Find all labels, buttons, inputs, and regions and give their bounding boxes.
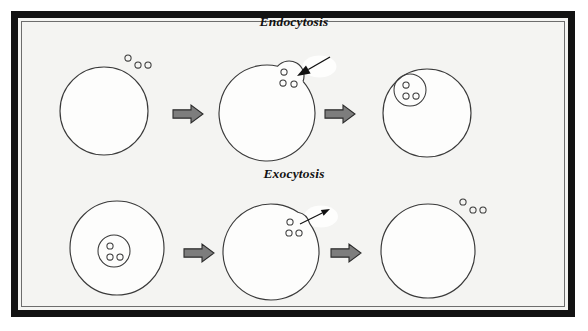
diagram-canvas: EndocytosisExocytosis: [0, 0, 588, 331]
cell-membrane: [70, 201, 164, 295]
row-title-endocytosis: Endocytosis: [259, 14, 329, 29]
cell-membrane: [60, 67, 148, 155]
cell-membrane: [381, 204, 475, 298]
cell-membrane: [223, 204, 319, 300]
arrow-highlight: [303, 56, 337, 78]
row-title-exocytosis: Exocytosis: [262, 166, 324, 181]
endocytosis-exocytosis-diagram: EndocytosisExocytosis: [0, 0, 588, 331]
endocytosis-stage-3-vesicle-inside: [383, 69, 471, 157]
exocytosis-stage-1-vesicle-inside: [70, 201, 164, 295]
